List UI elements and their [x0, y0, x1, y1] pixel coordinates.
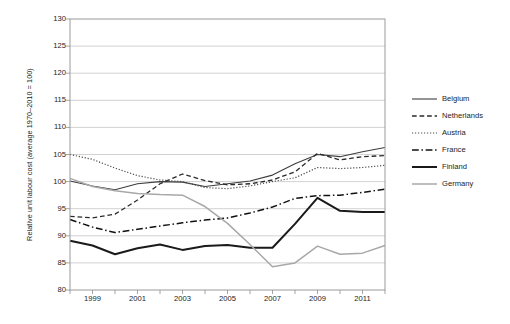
figure-container: Relative unit labour cost (average 1970–… [0, 0, 510, 324]
data-series-layer [70, 147, 385, 266]
chart-canvas [70, 19, 385, 290]
x-axis-tick-label: 2003 [163, 295, 203, 303]
legend-item-austria[interactable]: Austria [412, 124, 508, 141]
legend-item-france[interactable]: France [412, 141, 508, 158]
legend-label: Netherlands [442, 111, 483, 120]
legend-swatch-icon [412, 179, 437, 189]
y-axis-tick-label: 105 [36, 151, 66, 159]
y-axis-tick-label: 120 [36, 69, 66, 77]
y-axis-tick-label: 100 [36, 178, 66, 186]
x-axis-tick-label: 2007 [253, 295, 293, 303]
x-axis-tick-label: 2005 [208, 295, 248, 303]
x-axis-tick-label: 2001 [118, 295, 158, 303]
legend-item-germany[interactable]: Germany [412, 175, 508, 192]
y-axis-tick-label: 80 [36, 286, 66, 294]
legend-label: Austria [442, 128, 466, 137]
legend-swatch-icon [412, 162, 437, 172]
y-axis-tick-label: 130 [36, 15, 66, 23]
y-axis-tick-label: 115 [36, 96, 66, 104]
x-axis-tick-label: 2011 [343, 295, 383, 303]
legend-swatch-icon [412, 94, 437, 104]
series-line-finland [70, 198, 385, 254]
x-axis-tick-labels: 1999200120032005200720092011 [70, 295, 385, 309]
y-axis-ticks [66, 19, 70, 290]
legend-label: Belgium [442, 94, 469, 103]
legend-swatch-icon [412, 128, 437, 138]
legend-swatch-icon [412, 145, 437, 155]
legend-item-finland[interactable]: Finland [412, 158, 508, 175]
legend-swatch-icon [412, 111, 437, 121]
y-axis-tick-label: 90 [36, 232, 66, 240]
plot-area [70, 19, 385, 290]
series-line-belgium [70, 147, 385, 189]
x-axis-tick-label: 2009 [298, 295, 338, 303]
series-line-netherlands [70, 153, 385, 217]
legend-item-belgium[interactable]: Belgium [412, 90, 508, 107]
legend-label: Germany [442, 179, 473, 188]
legend-item-netherlands[interactable]: Netherlands [412, 107, 508, 124]
series-line-france [70, 189, 385, 232]
y-axis-tick-label: 85 [36, 259, 66, 267]
y-axis-tick-label: 125 [36, 42, 66, 50]
x-axis-tick-label: 1999 [73, 295, 113, 303]
y-axis-tick-label: 95 [36, 205, 66, 213]
chart-legend: BelgiumNetherlandsAustriaFranceFinlandGe… [412, 90, 508, 192]
legend-label: Finland [442, 162, 467, 171]
legend-label: France [442, 145, 466, 154]
gridlines [70, 46, 385, 263]
y-axis-tick-label: 110 [36, 123, 66, 131]
y-axis-tick-labels: 13012512011511010510095908580 [32, 19, 66, 290]
